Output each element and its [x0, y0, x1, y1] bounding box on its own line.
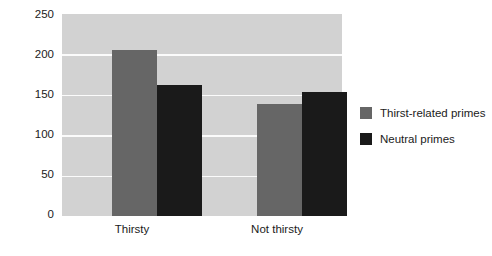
- x-axis-tick-labels: Thirsty Not thirsty: [62, 222, 342, 240]
- y-tick-label-100: 100: [35, 128, 54, 140]
- y-axis-tick-labels: 250 200 150 100 50 0: [0, 0, 58, 256]
- legend-item-neutral: Neutral primes: [360, 126, 490, 152]
- x-tick-label-thirsty: Thirsty: [115, 222, 150, 236]
- legend-swatch-neutral-icon: [360, 133, 372, 145]
- legend-item-thirst-related: Thirst-related primes: [360, 100, 490, 126]
- bars-layer: [62, 14, 342, 216]
- y-tick-label-0: 0: [48, 208, 54, 220]
- bar-chart-figure: mL Consumed 250 200 150 100 50 0 Thirsty…: [0, 0, 492, 256]
- bar-not-thirsty-neutral-primes: [302, 92, 347, 216]
- bar-not-thirsty-thirst-related-primes: [257, 104, 302, 216]
- legend-label-neutral: Neutral primes: [380, 133, 455, 146]
- chart-legend: Thirst-related primes Neutral primes: [360, 100, 490, 152]
- x-tick-label-not-thirsty: Not thirsty: [251, 222, 303, 236]
- legend-label-thirst-related: Thirst-related primes: [380, 107, 485, 120]
- bar-thirsty-neutral-primes: [157, 85, 202, 216]
- y-tick-label-150: 150: [35, 88, 54, 100]
- bar-thirsty-thirst-related-primes: [112, 50, 157, 216]
- y-tick-label-250: 250: [35, 8, 54, 20]
- plot-area: [62, 14, 342, 216]
- legend-swatch-thirst-related-icon: [360, 107, 372, 119]
- y-tick-label-50: 50: [41, 168, 54, 180]
- y-tick-label-200: 200: [35, 48, 54, 60]
